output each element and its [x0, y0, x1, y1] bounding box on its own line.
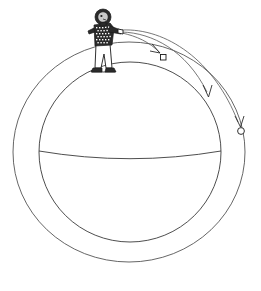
trajectory-short-group	[122, 33, 166, 60]
trajectory-long-group	[122, 30, 244, 134]
figure-canvas	[0, 0, 261, 291]
planet-sphere-outline	[39, 62, 221, 242]
thrower-arm-left	[88, 28, 95, 34]
thrower-eye	[100, 15, 102, 17]
thrower-shoe-left	[91, 68, 102, 72]
trajectory-long-path	[122, 30, 238, 122]
thrower-pants	[95, 44, 112, 68]
planet-sphere-group	[39, 62, 221, 242]
thrower-shoe-right	[105, 68, 116, 72]
thrower-face	[98, 12, 108, 22]
thrower-neck	[100, 22, 106, 26]
equator-line	[39, 151, 221, 159]
landing-marker-square	[161, 55, 167, 61]
thrower-hand	[118, 29, 123, 34]
newtons-cannonball-figure: Newton's cannonball A person standing on…	[0, 0, 261, 291]
landing-marker-circle	[238, 128, 245, 135]
